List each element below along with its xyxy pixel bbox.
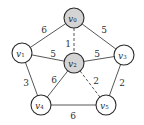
edge-weight-v0-v3: 5 (101, 25, 107, 35)
edge-weight-v4-v5: 6 (70, 111, 76, 121)
edge-weight-v2-v4: 6 (51, 75, 57, 85)
edge-weight-v1-v4: 3 (23, 78, 29, 88)
edge-weight-v3-v5: 2 (119, 78, 125, 88)
node-v4: v4 (31, 95, 51, 115)
nodes-group: v0v1v2v3v4v5 (12, 8, 134, 115)
edge-weight-v2-v5: 2 (93, 76, 99, 86)
graph-diagram: 6515536226 v0v1v2v3v4v5 (0, 0, 144, 125)
edge-weight-v0-v1: 6 (41, 25, 47, 35)
node-v1: v1 (12, 43, 32, 63)
node-v3: v3 (114, 45, 134, 65)
edge-weight-v0-v2: 1 (65, 39, 71, 49)
node-v0: v0 (64, 8, 84, 28)
node-v5: v5 (96, 95, 116, 115)
node-v2: v2 (64, 53, 84, 73)
edge-weight-v1-v2: 5 (50, 49, 56, 59)
edge-weight-v2-v3: 5 (94, 49, 100, 59)
